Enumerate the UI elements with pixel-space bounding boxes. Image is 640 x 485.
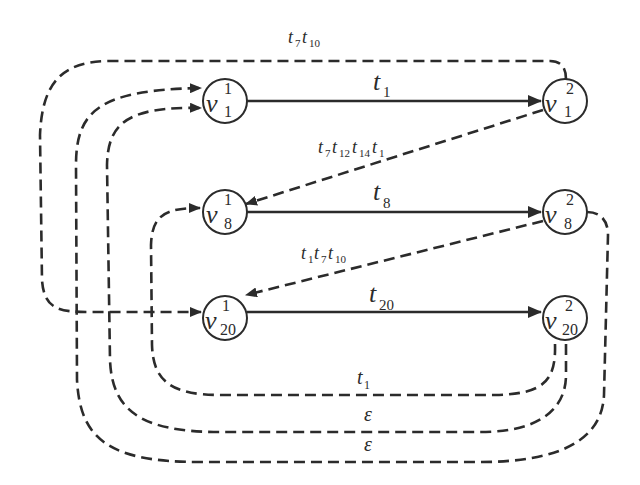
svg-text:t: t	[318, 137, 324, 157]
svg-text:1: 1	[308, 253, 314, 265]
node-v20-2: v 2 20	[543, 296, 587, 340]
svg-text:ε: ε	[364, 433, 372, 455]
edge-v8-2-to-v20-1	[246, 221, 543, 295]
node-subscript: 8	[224, 215, 232, 232]
svg-text:ε: ε	[364, 403, 372, 425]
node-label: v	[545, 89, 557, 118]
svg-text:t: t	[301, 243, 307, 263]
edge-v8-2-to-v1-1-epsilon	[76, 88, 608, 462]
edge-label-t7-t10-top: t 7 t 10	[288, 27, 321, 49]
svg-text:t: t	[373, 67, 381, 96]
svg-text:t: t	[352, 137, 358, 157]
node-v8-2: v 2 8	[543, 190, 587, 234]
node-v8-1: v 1 8	[203, 190, 247, 234]
svg-text:t: t	[314, 243, 320, 263]
edge-label-bottom-t1: t 1	[357, 366, 370, 392]
edge-label-bottom-epsilon-1: ε	[364, 403, 372, 425]
node-v20-1: v 1 20	[203, 296, 247, 340]
edge-label-bottom-epsilon-2: ε	[364, 433, 372, 455]
svg-text:t: t	[372, 137, 378, 157]
edge-label-t1: t 1	[373, 67, 391, 100]
svg-text:20: 20	[379, 297, 394, 313]
node-v1-2: v 2 1	[543, 79, 587, 123]
svg-text:1: 1	[383, 84, 391, 100]
node-superscript: 2	[565, 297, 573, 314]
node-label: v	[545, 306, 557, 335]
edge-v1-2-to-v20-1	[40, 61, 566, 312]
svg-text:1: 1	[379, 147, 385, 159]
svg-text:1: 1	[364, 378, 370, 392]
node-subscript: 1	[564, 103, 572, 120]
svg-text:t: t	[288, 27, 294, 47]
node-superscript: 1	[222, 297, 230, 314]
svg-text:t: t	[357, 366, 363, 388]
svg-text:t: t	[332, 137, 338, 157]
node-subscript: 8	[564, 215, 572, 232]
svg-text:7: 7	[321, 253, 327, 265]
state-graph-diagram: v 1 1 v 2 1 v 1 8 v 2 8 v 1 20 v 2 20 t …	[0, 0, 640, 485]
svg-text:t: t	[373, 177, 381, 206]
node-subscript: 1	[224, 103, 232, 120]
node-label: v	[206, 200, 218, 229]
svg-text:t: t	[369, 279, 377, 308]
svg-text:10: 10	[335, 253, 347, 265]
node-superscript: 1	[224, 80, 232, 97]
svg-text:7: 7	[295, 37, 301, 49]
svg-text:t: t	[328, 243, 334, 263]
node-superscript: 2	[566, 80, 574, 97]
svg-text:t: t	[302, 27, 308, 47]
edge-label-t1-t7-t10: t 1 t 7 t 10	[301, 243, 347, 265]
svg-text:12: 12	[339, 147, 350, 159]
svg-text:10: 10	[309, 37, 321, 49]
svg-text:14: 14	[359, 147, 371, 159]
node-superscript: 1	[224, 191, 232, 208]
svg-text:7: 7	[325, 147, 331, 159]
node-label: v	[206, 89, 218, 118]
node-subscript: 20	[220, 321, 236, 338]
edge-v1-2-to-v8-1	[246, 110, 543, 204]
edge-label-t7-t12-t14-t1: t 7 t 12 t 14 t 1	[318, 137, 385, 159]
node-subscript: 20	[562, 321, 578, 338]
node-label: v	[205, 306, 217, 335]
edge-label-t20: t 20	[369, 279, 394, 313]
svg-text:8: 8	[383, 195, 391, 211]
node-label: v	[545, 200, 557, 229]
edge-label-t8: t 8	[373, 177, 391, 211]
node-v1-1: v 1 1	[203, 79, 247, 123]
node-superscript: 2	[566, 191, 574, 208]
